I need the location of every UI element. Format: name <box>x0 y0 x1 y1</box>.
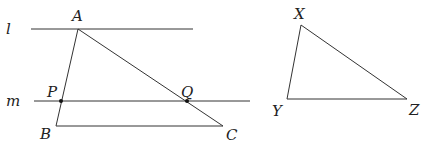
geometry-diagram: l m A B C P Q X Y Z <box>0 0 437 152</box>
label-point-q: Q <box>181 83 193 101</box>
point-p <box>59 99 63 103</box>
label-vertex-b: B <box>39 125 51 143</box>
side-xy <box>287 25 301 99</box>
side-xz <box>301 25 407 99</box>
label-point-p: P <box>46 83 58 101</box>
label-line-l: l <box>6 20 11 38</box>
side-ac <box>78 29 223 126</box>
label-vertex-y: Y <box>272 102 284 120</box>
label-vertex-c: C <box>226 126 238 144</box>
label-vertex-x: X <box>293 5 306 23</box>
label-line-m: m <box>6 92 20 110</box>
side-ab <box>56 29 78 126</box>
label-vertex-z: Z <box>408 101 420 119</box>
label-vertex-a: A <box>70 7 83 25</box>
